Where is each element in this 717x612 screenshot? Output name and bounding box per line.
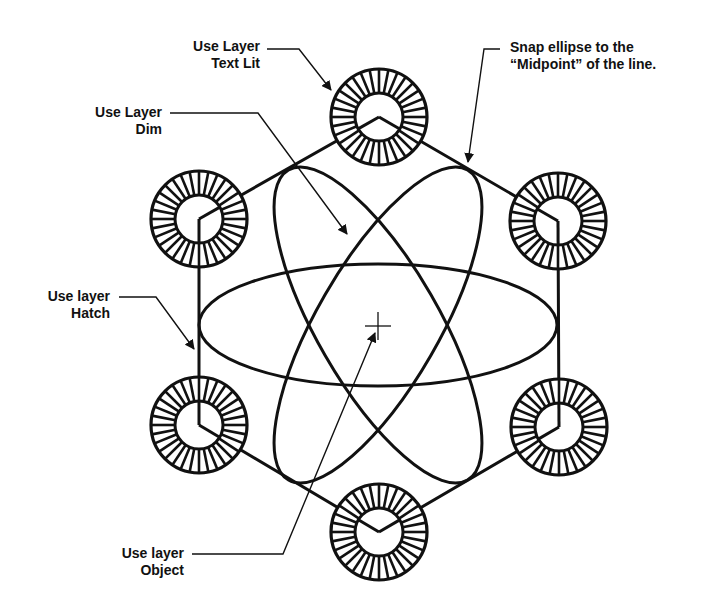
leader-midpoint: [468, 49, 500, 162]
callout-object: Use layer Object: [122, 545, 184, 579]
leader-text-lit: [267, 49, 331, 90]
callout-hatch-line1: Use layer: [48, 288, 110, 305]
callout-hatch-line2: Hatch: [48, 305, 110, 322]
callout-midpoint: Snap ellipse to the “Midpoint” of the li…: [510, 39, 656, 73]
callout-hatch: Use layer Hatch: [48, 288, 110, 322]
callout-dim-line2: Dim: [95, 121, 162, 138]
wheel-group: [151, 69, 607, 580]
wheel-lower-right: [511, 379, 607, 475]
callout-text-lit: Use Layer Text Lit: [193, 38, 260, 72]
leader-lines: [119, 49, 500, 554]
wheel-bottom: [331, 484, 427, 580]
wheel-upper-right: [510, 173, 606, 269]
callout-text-lit-line1: Use Layer: [193, 38, 260, 55]
wheel-top: [331, 69, 427, 165]
callout-object-line2: Object: [122, 562, 184, 579]
wheel-upper-left: [151, 171, 247, 267]
callout-text-lit-line2: Text Lit: [193, 55, 260, 72]
hexagon-outline: [199, 117, 559, 532]
callout-dim-line1: Use Layer: [95, 104, 162, 121]
center-crosshair-icon: [365, 312, 391, 340]
wheel-lower-left: [151, 377, 247, 473]
callout-midpoint-line2: “Midpoint” of the line.: [510, 56, 656, 73]
callout-object-line1: Use layer: [122, 545, 184, 562]
callout-midpoint-line1: Snap ellipse to the: [510, 39, 656, 56]
leader-hatch: [119, 297, 194, 349]
callout-dim: Use Layer Dim: [95, 104, 162, 138]
